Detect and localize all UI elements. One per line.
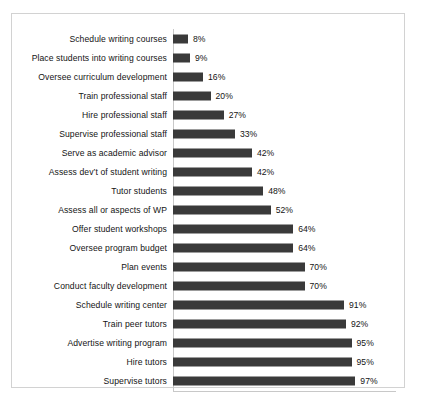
category-label: Offer student workshops	[12, 224, 167, 234]
bar-track: 20%	[173, 86, 400, 105]
bar	[173, 225, 293, 234]
bar-row: Supervise tutors97%	[12, 372, 404, 391]
category-label: Supervise tutors	[12, 376, 167, 386]
bar	[173, 167, 252, 176]
bar-track: 27%	[173, 105, 400, 124]
category-label: Train peer tutors	[12, 319, 167, 329]
bar-row: Serve as academic advisor42%	[12, 143, 404, 162]
bar	[173, 34, 188, 43]
plot-area: Schedule writing courses8%Place students…	[12, 14, 404, 387]
bar-row: Train professional staff20%	[12, 86, 404, 105]
bar	[173, 244, 293, 253]
category-label: Oversee curriculum development	[12, 72, 167, 82]
bar	[173, 205, 271, 214]
bar-row: Hire tutors95%	[12, 353, 404, 372]
bar	[173, 358, 352, 367]
bar-row: Assess all or aspects of WP52%	[12, 200, 404, 219]
category-label: Hire professional staff	[12, 110, 167, 120]
bar-value-label: 8%	[188, 34, 205, 44]
category-label: Advertise writing program	[12, 338, 167, 348]
category-label: Oversee program budget	[12, 243, 167, 253]
chart-container: Schedule writing courses8%Place students…	[11, 13, 405, 388]
category-label: Supervise professional staff	[12, 129, 167, 139]
category-label: Place students into writing courses	[12, 53, 167, 63]
bar	[173, 53, 190, 62]
bar-row: Tutor students48%	[12, 181, 404, 200]
bar-track: 8%	[173, 29, 400, 48]
category-label: Hire tutors	[12, 357, 167, 367]
category-label: Assess dev’t of student writing	[12, 167, 167, 177]
bar	[173, 263, 305, 272]
category-label: Train professional staff	[12, 91, 167, 101]
bar-value-label: 16%	[203, 72, 225, 82]
bar-row: Supervise professional staff33%	[12, 124, 404, 143]
bar-track: 42%	[173, 162, 400, 181]
bar-value-label: 42%	[252, 167, 274, 177]
bar-value-label: 70%	[305, 281, 327, 291]
bar-row: Hire professional staff27%	[12, 105, 404, 124]
bar-track: 70%	[173, 258, 400, 277]
bar-value-label: 9%	[190, 53, 207, 63]
bar-value-label: 48%	[263, 186, 285, 196]
bar-row: Conduct faculty development70%	[12, 277, 404, 296]
bar	[173, 282, 305, 291]
bar-track: 97%	[173, 372, 400, 391]
bar-track: 64%	[173, 239, 400, 258]
bar	[173, 186, 263, 195]
bar-track: 95%	[173, 353, 400, 372]
bar	[173, 377, 355, 386]
bar-row: Assess dev’t of student writing42%	[12, 162, 404, 181]
bar-track: 16%	[173, 67, 400, 86]
bar-track: 64%	[173, 220, 400, 239]
bar-track: 33%	[173, 124, 400, 143]
bar-value-label: 33%	[235, 129, 257, 139]
bar-track: 70%	[173, 277, 400, 296]
bar	[173, 72, 203, 81]
bar-track: 91%	[173, 296, 400, 315]
bar-row: Train peer tutors92%	[12, 315, 404, 334]
bar-track: 92%	[173, 315, 400, 334]
bar-track: 52%	[173, 200, 400, 219]
bar-track: 42%	[173, 143, 400, 162]
category-label: Tutor students	[12, 186, 167, 196]
bar-value-label: 27%	[224, 110, 246, 120]
bar-value-label: 97%	[355, 376, 377, 386]
bar-value-label: 20%	[211, 91, 233, 101]
bar	[173, 339, 352, 348]
value-axis-baseline	[173, 391, 396, 392]
bar-value-label: 95%	[352, 338, 374, 348]
bar-value-label: 70%	[305, 262, 327, 272]
category-label: Schedule writing center	[12, 300, 167, 310]
bar-row: Advertise writing program95%	[12, 334, 404, 353]
bar-row: Oversee curriculum development16%	[12, 67, 404, 86]
bar-row: Schedule writing courses8%	[12, 29, 404, 48]
bar-value-label: 52%	[271, 205, 293, 215]
bar-track: 9%	[173, 48, 400, 67]
bar	[173, 129, 235, 138]
bar-track: 95%	[173, 334, 400, 353]
bar-track: 48%	[173, 181, 400, 200]
bar-row: Place students into writing courses9%	[12, 48, 404, 67]
bar-value-label: 64%	[293, 224, 315, 234]
bar	[173, 301, 344, 310]
bar-value-label: 64%	[293, 243, 315, 253]
bar-value-label: 95%	[352, 357, 374, 367]
category-label: Schedule writing courses	[12, 34, 167, 44]
bar-value-label: 42%	[252, 148, 274, 158]
bar	[173, 91, 211, 100]
bar-row: Plan events70%	[12, 258, 404, 277]
bar-value-label: 92%	[346, 319, 368, 329]
bar	[173, 110, 224, 119]
bar-row: Oversee program budget64%	[12, 239, 404, 258]
bar	[173, 148, 252, 157]
bar	[173, 320, 346, 329]
bar-row: Schedule writing center91%	[12, 296, 404, 315]
bar-value-label: 91%	[344, 300, 366, 310]
bar-row: Offer student workshops64%	[12, 220, 404, 239]
category-label: Assess all or aspects of WP	[12, 205, 167, 215]
category-label: Plan events	[12, 262, 167, 272]
category-label: Serve as academic advisor	[12, 148, 167, 158]
category-label: Conduct faculty development	[12, 281, 167, 291]
